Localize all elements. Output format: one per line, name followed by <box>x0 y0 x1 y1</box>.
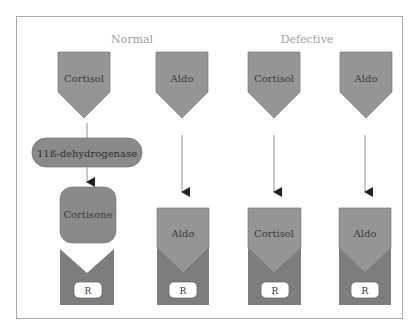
svg-text:Cortisol: Cortisol <box>254 228 294 239</box>
svg-text:Cortisol: Cortisol <box>254 73 294 84</box>
svg-text:Cortisone: Cortisone <box>63 209 112 220</box>
receptor-bound-aldo: Aldo R <box>157 208 209 305</box>
svg-text:Cortisol: Cortisol <box>64 73 104 84</box>
svg-text:R: R <box>362 286 369 296</box>
hormone-aldo-defective: Aldo <box>340 52 392 118</box>
svg-text:Aldo: Aldo <box>170 73 194 84</box>
receptor-bound-aldo-defective: Aldo R <box>339 208 391 305</box>
hormone-cortisol-defective: Cortisol <box>248 52 300 118</box>
hormone-receptor-diagram: Normal Defective Cortisol 11ß-dehydrogen… <box>0 0 419 335</box>
heading-defective: Defective <box>281 33 334 46</box>
svg-text:Aldo: Aldo <box>354 73 378 84</box>
enzyme-11b-dehydrogenase: 11ß-dehydrogenase <box>32 138 142 167</box>
hormone-aldo-normal: Aldo <box>156 52 208 118</box>
svg-text:R: R <box>180 286 187 296</box>
metabolite-cortisone: Cortisone <box>60 187 116 243</box>
hormone-cortisol-normal: Cortisol <box>58 52 110 118</box>
heading-normal: Normal <box>111 33 153 46</box>
svg-text:11ß-dehydrogenase: 11ß-dehydrogenase <box>37 148 137 159</box>
receptor-bound-cortisol: Cortisol R <box>248 208 301 305</box>
svg-text:R: R <box>272 286 279 296</box>
svg-text:Aldo: Aldo <box>171 228 195 239</box>
receptor-empty: R <box>60 249 114 305</box>
svg-text:Aldo: Aldo <box>353 228 377 239</box>
svg-text:R: R <box>85 286 92 296</box>
